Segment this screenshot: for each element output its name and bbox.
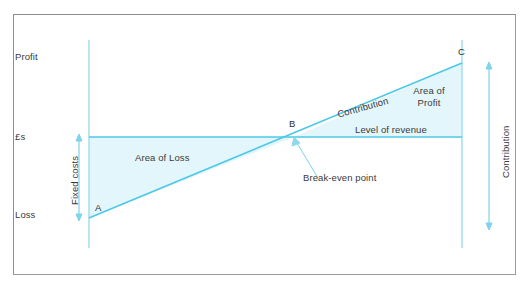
- break-even-point-label: Break-even point: [303, 172, 376, 183]
- point-c-label: C: [458, 46, 465, 57]
- break-even-chart-figure: Profit £s Loss Fixed costs Area of Loss …: [0, 0, 528, 287]
- contribution-bracket-label: Contribution: [500, 126, 511, 178]
- axis-label-loss: Loss: [15, 209, 35, 220]
- area-of-profit-label: Area of Profit: [398, 85, 460, 109]
- axis-label-profit: Profit: [15, 51, 38, 62]
- area-of-profit-line1: Area of: [398, 85, 460, 97]
- chart-graphics: [0, 0, 528, 287]
- fixed-costs-label: Fixed costs: [69, 156, 80, 205]
- axis-label-currency: £s: [15, 131, 25, 142]
- level-of-revenue-label: Level of revenue: [355, 124, 427, 135]
- area-of-loss-label: Area of Loss: [135, 152, 190, 163]
- area-of-profit-line2: Profit: [398, 97, 460, 109]
- point-a-label: A: [95, 202, 101, 213]
- contribution-arrow: [486, 62, 492, 230]
- point-b-label: B: [289, 118, 295, 129]
